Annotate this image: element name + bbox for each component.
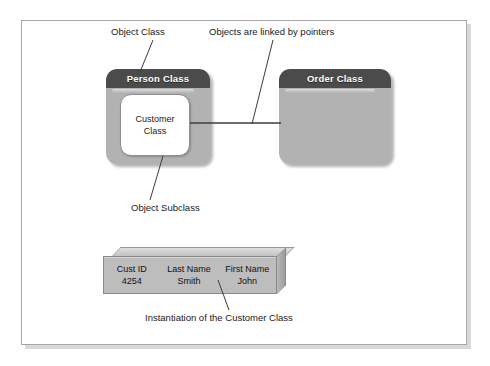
subclass-label-line1: Customer	[135, 113, 174, 125]
subclass-box-customer[interactable]: Customer Class	[120, 94, 190, 156]
table-cell-cust-id: 4254	[104, 275, 159, 287]
table-header-row: Cust ID Last Name First Name	[104, 263, 276, 275]
annotation-pointers: Objects are linked by pointers	[209, 26, 334, 37]
table-front-face: Cust ID Last Name First Name 4254 Smith …	[103, 256, 277, 294]
diagram-frame	[21, 20, 467, 345]
table-header-last-name: Last Name	[159, 263, 218, 275]
annotation-instantiation: Instantiation of the Customer Class	[145, 312, 293, 323]
subclass-label-line2: Class	[144, 125, 167, 137]
diagram-canvas: Person Class Customer Class Order Class …	[0, 0, 490, 366]
table-top-bevel	[112, 247, 295, 256]
gloss-highlight-order	[285, 89, 375, 93]
class-box-person[interactable]: Person Class Customer Class	[106, 69, 210, 164]
class-box-order[interactable]: Order Class	[279, 69, 391, 164]
table-cell-last-name: Smith	[159, 275, 218, 287]
class-body-order	[279, 88, 391, 164]
table-header-first-name: First Name	[219, 263, 276, 275]
class-header-person: Person Class	[106, 69, 210, 88]
class-body-person: Customer Class	[106, 88, 210, 164]
annotation-object-class: Object Class	[111, 26, 165, 37]
instance-table[interactable]: Cust ID Last Name First Name 4254 Smith …	[103, 247, 277, 294]
table-cell-first-name: John	[219, 275, 276, 287]
table-row: 4254 Smith John	[104, 275, 276, 287]
class-header-order: Order Class	[279, 69, 391, 88]
gloss-highlight-person	[112, 89, 194, 93]
table-header-cust-id: Cust ID	[104, 263, 159, 275]
annotation-object-subclass: Object Subclass	[131, 202, 200, 213]
